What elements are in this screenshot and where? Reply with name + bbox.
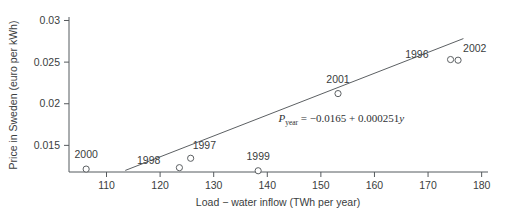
data-point-marker <box>188 155 194 161</box>
data-point-label: 1999 <box>246 150 270 162</box>
x-tick-label: 130 <box>205 179 223 191</box>
x-tick-label: 180 <box>473 179 491 191</box>
x-tick-label: 110 <box>98 179 115 191</box>
x-tick-label: 170 <box>419 179 437 191</box>
x-tick-label: 160 <box>366 179 384 191</box>
data-point-marker <box>335 90 341 96</box>
data-point-marker <box>255 168 261 174</box>
x-tick-label: 140 <box>259 179 277 191</box>
scatter-plot: 110120130140150160170180 0.0150.020.0250… <box>0 0 515 221</box>
y-tick-label: 0.015 <box>34 139 60 151</box>
x-axis-title: Load − water inflow (TWh per year) <box>196 196 360 208</box>
x-tick-label: 150 <box>312 179 330 191</box>
data-point-label: 2000 <box>74 148 98 160</box>
data-point-label: 1998 <box>137 154 161 166</box>
data-point-marker <box>176 165 182 171</box>
data-point-label: 2001 <box>326 73 350 85</box>
y-tick-label: 0.03 <box>40 14 61 26</box>
x-tick-label: 120 <box>151 179 169 191</box>
chart-background <box>0 0 515 221</box>
data-point-marker <box>83 166 89 172</box>
data-point-label: 1996 <box>405 48 429 60</box>
data-point-label: 2002 <box>463 42 487 54</box>
data-point-label: 1997 <box>193 139 217 151</box>
data-point-marker <box>447 56 453 62</box>
chart-figure: 110120130140150160170180 0.0150.020.0250… <box>0 0 515 221</box>
data-point-marker <box>455 57 461 63</box>
y-axis-title: Price in Sweden (euro per kWh) <box>7 21 19 170</box>
y-tick-label: 0.02 <box>40 97 61 109</box>
y-tick-label: 0.025 <box>34 56 60 68</box>
